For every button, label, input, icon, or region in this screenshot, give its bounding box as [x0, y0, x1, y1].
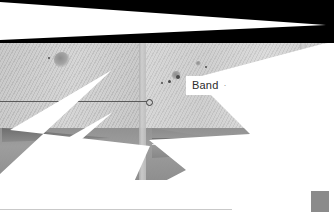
screenshot-canvas: Band · — [0, 0, 334, 222]
measurement-endpoint-marker[interactable] — [146, 99, 153, 106]
bottom-guide-line — [0, 209, 232, 210]
white-mask-bottom — [0, 180, 334, 222]
speck-icon — [168, 80, 171, 83]
corner-swatch — [311, 191, 329, 212]
speck-icon — [176, 75, 180, 79]
speck-icon — [161, 82, 163, 84]
band-label-trailing-mark: · — [224, 76, 227, 95]
speck-icon — [205, 66, 207, 68]
wood-knot-icon — [54, 52, 70, 68]
wood-knot-icon — [196, 61, 201, 66]
band-label-chip[interactable]: Band · — [186, 76, 238, 95]
band-label-text: Band — [192, 76, 219, 95]
speck-icon — [48, 57, 50, 59]
